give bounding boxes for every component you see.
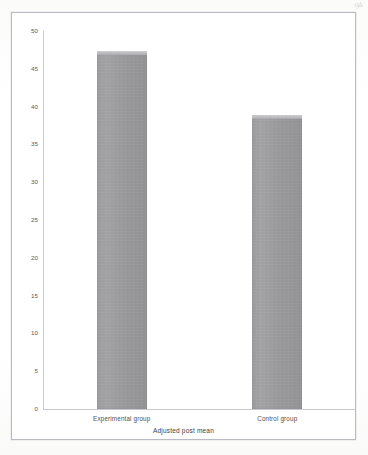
bar-top-highlight	[252, 115, 302, 119]
chart-page: 94 05101520253035404550 Adjusted post me…	[0, 0, 368, 455]
y-axis-tick-label: 15	[20, 292, 38, 298]
y-axis-tick-label: 0	[20, 406, 38, 412]
x-axis-category-label: Experimental group	[44, 415, 200, 422]
y-axis-tick-label: 40	[20, 103, 38, 109]
x-axis-category-label: Control group	[200, 415, 356, 422]
y-axis-tick-label: 30	[20, 179, 38, 185]
page-number-mark: 94	[354, 0, 363, 11]
y-axis-tick-label: 45	[20, 66, 38, 72]
y-axis-tick-label: 50	[20, 28, 38, 34]
y-axis-tick-label: 35	[20, 141, 38, 147]
bar-texture	[97, 51, 147, 409]
bars-layer	[44, 13, 353, 439]
plot-area: 05101520253035404550 Adjusted post mean …	[12, 13, 355, 439]
bar	[252, 115, 302, 409]
y-axis-tick-labels: 05101520253035404550	[20, 13, 38, 439]
y-axis-tick-label: 5	[20, 368, 38, 374]
y-axis-tick-label: 20	[20, 255, 38, 261]
bar	[97, 51, 147, 409]
y-axis-tick-label: 10	[20, 330, 38, 336]
bar-top-highlight	[97, 51, 147, 55]
x-axis-title: Adjusted post mean	[12, 427, 355, 434]
chart-frame: 05101520253035404550 Adjusted post mean …	[11, 12, 356, 440]
bar-texture	[252, 115, 302, 409]
y-axis-tick-label: 25	[20, 217, 38, 223]
